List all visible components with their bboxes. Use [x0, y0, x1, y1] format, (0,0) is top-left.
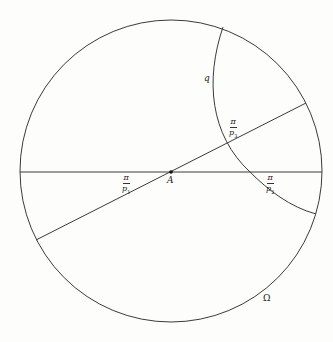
angle-label-p2: π p2: [266, 174, 274, 195]
angle-p1-numerator: π: [123, 174, 130, 184]
angle-label-p3: π p3: [229, 118, 237, 139]
point-a: [169, 170, 173, 174]
diagram-canvas: A q Ω π p1 π p2 π p3: [0, 0, 333, 342]
angle-p3-numerator: π: [230, 118, 237, 128]
angle-p1-denominator: p1: [122, 184, 130, 195]
angle-p3-denominator: p3: [229, 128, 237, 139]
angle-p2-denominator: p2: [266, 184, 274, 195]
angle-label-p1: π p1: [122, 174, 130, 195]
diagram-svg: [0, 0, 333, 342]
angle-p2-numerator: π: [267, 174, 274, 184]
label-q: q: [204, 74, 210, 83]
label-omega: Ω: [263, 294, 270, 303]
label-a: A: [167, 176, 174, 185]
